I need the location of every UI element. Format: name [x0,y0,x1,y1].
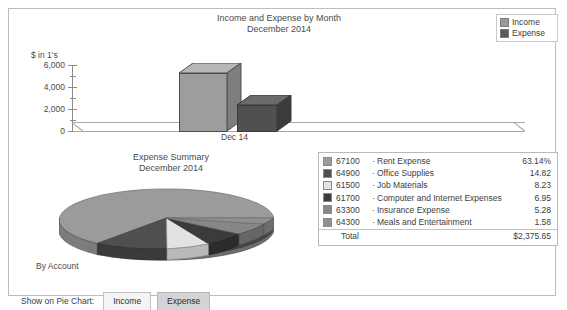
account-number: 61700 [336,192,370,204]
table-row[interactable]: 64300 · Meals and Entertainment 1.58 [319,216,557,228]
pie-chart-title-line1: Expense Summary [71,152,271,163]
separator-dot: · [370,192,377,204]
bar-chart-title-line1: Income and Expense by Month [164,13,394,24]
account-percent: 8.23 [534,179,553,191]
chart-floor-left-bevel [72,122,84,132]
bar-chart-title-line2: December 2014 [164,24,394,35]
account-percent: 1.58 [534,216,553,228]
bar-chart-legend: Income Expense [496,14,558,42]
x-tick-label-dec14: Dec 14 [221,132,248,142]
account-percent: 14.82 [530,167,553,179]
income-swatch-icon [500,18,509,27]
account-name: Rent Expense [377,155,522,167]
y-axis-tick-minor-5000 [70,76,76,77]
tab-expense[interactable]: Expense [157,292,210,310]
chart-panel: Income and Expense by Month December 201… [8,8,556,296]
legend-label-income: Income [512,17,540,28]
bar-expense [237,95,299,132]
y-axis-tick-minor-1000 [70,120,76,121]
legend-label-expense: Expense [512,28,545,39]
account-number: 64300 [336,216,370,228]
y-axis-tick-minor-3000 [70,98,76,99]
separator-dot: · [370,179,377,191]
separator-dot: · [370,216,377,228]
legend-entry-expense: Expense [500,28,554,39]
tab-income[interactable]: Income [103,292,151,310]
y-tick-6000: 6,000 [31,60,65,70]
bar-chart-title: Income and Expense by Month December 201… [164,13,394,35]
account-name: Job Materials [377,179,534,191]
account-name: Computer and Internet Expenses [377,192,534,204]
pie-chart-title-line2: December 2014 [71,163,271,174]
account-name: Insurance Expense [377,204,534,216]
legend-swatch-icon [323,205,332,214]
account-name: Meals and Entertainment [377,216,534,228]
separator-dot: · [370,204,377,216]
y-axis-tick-major-2000 [68,109,77,110]
account-percent: 63.14% [522,155,553,167]
chart-floor-back-edge [73,122,525,123]
y-axis-tick-major-4000 [68,87,77,88]
legend-entry-income: Income [500,17,554,28]
expense-legend-table: 67100 · Rent Expense 63.14% 64900 · Offi… [318,152,558,246]
bar-chart-region: Income and Expense by Month December 201… [9,9,555,141]
table-row[interactable]: 61700 · Computer and Internet Expenses 6… [319,192,557,204]
legend-swatch-icon [323,157,332,166]
table-row[interactable]: 64900 · Office Supplies 14.82 [319,167,557,179]
legend-swatch-icon [323,181,332,190]
account-number: 64900 [336,167,370,179]
account-name: Office Supplies [377,167,530,179]
pie-chart [59,187,274,265]
y-tick-4000: 4,000 [31,82,65,92]
pie-chart-graphic [59,187,274,265]
total-value: $2,375.65 [513,230,553,243]
y-axis-tick-major-6000 [68,65,77,66]
show-on-pie-chart-label: Show on Pie Chart: [21,296,94,306]
account-number: 67100 [336,155,370,167]
legend-swatch-icon [323,193,332,202]
account-number: 63300 [336,204,370,216]
y-tick-2000: 2,000 [31,104,65,114]
expense-swatch-icon [500,29,509,38]
chart-floor-front-edge [73,131,525,132]
y-axis-label: $ in 1's [31,50,58,60]
account-number: 61500 [336,179,370,191]
table-row[interactable]: 61500 · Job Materials 8.23 [319,179,557,191]
table-row[interactable]: 63300 · Insurance Expense 5.28 [319,204,557,216]
table-total-row: Total $2,375.65 [319,229,557,243]
legend-swatch-icon [323,169,332,178]
account-percent: 5.28 [534,204,553,216]
pie-chart-title: Expense Summary December 2014 [71,152,271,174]
total-label: Total [323,230,513,243]
y-tick-0: 0 [31,126,65,136]
chart-floor-right-bevel [514,122,528,132]
separator-dot: · [370,155,377,167]
pie-chart-footer-label: By Account [36,261,79,271]
pie-chart-toolbar: Show on Pie Chart: Income Expense [21,292,210,310]
separator-dot: · [370,167,377,179]
table-row[interactable]: 67100 · Rent Expense 63.14% [319,155,557,167]
legend-swatch-icon [323,218,332,227]
account-percent: 6.95 [534,192,553,204]
